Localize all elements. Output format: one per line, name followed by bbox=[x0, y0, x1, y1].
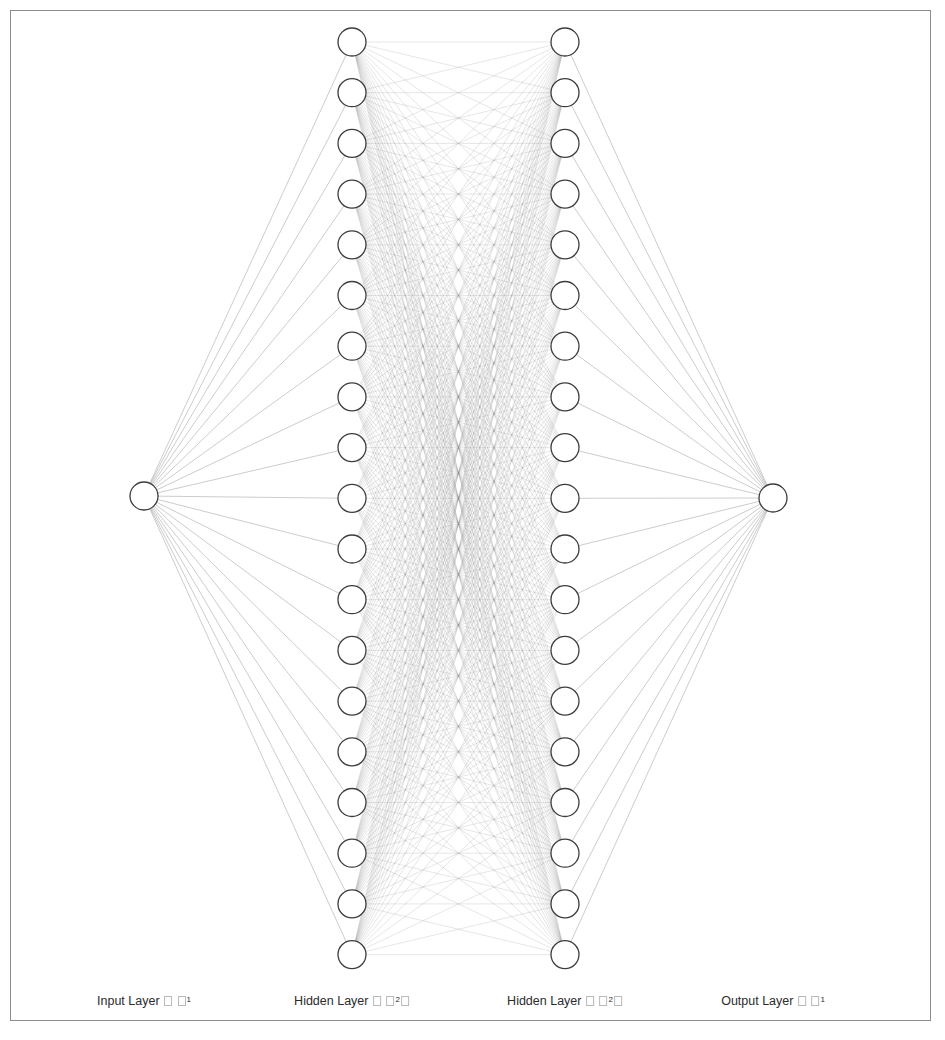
neuron-node-hidden1-15[interactable] bbox=[338, 738, 366, 766]
connection-edge bbox=[565, 498, 773, 853]
hidden-layer-1-label-text: Hidden Layer bbox=[294, 994, 368, 1008]
output-layer-label-text: Output Layer bbox=[721, 994, 793, 1008]
neuron-node-hidden1-18[interactable] bbox=[338, 890, 366, 918]
connection-edge bbox=[565, 498, 773, 904]
neuron-node-hidden2-19[interactable] bbox=[551, 941, 579, 969]
neuron-node-hidden2-9[interactable] bbox=[551, 434, 579, 462]
neuron-node-input-1[interactable] bbox=[130, 482, 158, 510]
connection-edge bbox=[565, 93, 773, 498]
connection-edge bbox=[144, 496, 352, 904]
neuron-node-hidden1-10[interactable] bbox=[338, 484, 366, 512]
connection-edge bbox=[565, 42, 773, 498]
missing-glyph-icon bbox=[599, 996, 607, 1006]
neuron-node-hidden2-12[interactable] bbox=[551, 586, 579, 614]
connection-edge bbox=[144, 346, 352, 496]
missing-glyph-icon bbox=[178, 996, 186, 1006]
neuron-node-hidden2-10[interactable] bbox=[551, 484, 579, 512]
connection-edge bbox=[565, 498, 773, 650]
neuron-node-output-1[interactable] bbox=[759, 484, 787, 512]
missing-glyph-icon bbox=[401, 996, 409, 1006]
neuron-node-hidden2-15[interactable] bbox=[551, 738, 579, 766]
neuron-node-hidden2-18[interactable] bbox=[551, 890, 579, 918]
connection-edge bbox=[144, 496, 352, 955]
missing-glyph-icon bbox=[798, 996, 806, 1006]
connection-edge bbox=[144, 143, 352, 496]
neuron-node-hidden2-5[interactable] bbox=[551, 231, 579, 259]
connection-edge bbox=[144, 93, 352, 496]
neuron-node-hidden2-17[interactable] bbox=[551, 839, 579, 867]
connection-edge bbox=[565, 498, 773, 701]
connection-edge bbox=[144, 496, 352, 752]
connection-edge bbox=[565, 498, 773, 955]
neuron-node-hidden2-1[interactable] bbox=[551, 28, 579, 56]
connection-edge bbox=[144, 194, 352, 496]
neuron-node-hidden1-2[interactable] bbox=[338, 79, 366, 107]
neuron-node-hidden1-6[interactable] bbox=[338, 282, 366, 310]
neuron-node-hidden1-9[interactable] bbox=[338, 434, 366, 462]
neuron-node-hidden2-6[interactable] bbox=[551, 282, 579, 310]
connection-edge bbox=[144, 496, 352, 701]
hidden-layer-2-label: Hidden Layer 2 bbox=[507, 992, 623, 1009]
connection-edge bbox=[565, 498, 773, 549]
connection-edge bbox=[565, 245, 773, 498]
connection-edge bbox=[144, 496, 352, 650]
missing-glyph-icon bbox=[386, 996, 394, 1006]
neuron-node-hidden1-13[interactable] bbox=[338, 636, 366, 664]
neuron-node-hidden1-4[interactable] bbox=[338, 180, 366, 208]
input-layer-superscript: 1 bbox=[187, 992, 191, 1008]
neuron-node-hidden1-1[interactable] bbox=[338, 28, 366, 56]
connection-edge bbox=[565, 296, 773, 499]
connection-edge bbox=[565, 498, 773, 752]
neuron-node-hidden1-11[interactable] bbox=[338, 535, 366, 563]
hidden-layer-2-label-text: Hidden Layer bbox=[507, 994, 581, 1008]
neuron-node-hidden1-17[interactable] bbox=[338, 839, 366, 867]
input-layer-label-text: Input Layer bbox=[97, 994, 160, 1008]
neuron-node-hidden1-7[interactable] bbox=[338, 332, 366, 360]
neural-network-figure: Input Layer 1 Hidden Layer 2 Hidden Laye… bbox=[0, 0, 945, 1040]
neuron-node-hidden1-16[interactable] bbox=[338, 789, 366, 817]
neuron-node-hidden1-3[interactable] bbox=[338, 129, 366, 157]
connection-edge bbox=[565, 143, 773, 498]
neuron-node-hidden2-16[interactable] bbox=[551, 789, 579, 817]
connection-edge bbox=[144, 42, 352, 496]
missing-glyph-icon bbox=[164, 996, 172, 1006]
connection-edge bbox=[144, 496, 352, 498]
connection-edge bbox=[144, 496, 352, 549]
connection-edge bbox=[565, 194, 773, 498]
connection-edges-group bbox=[144, 42, 773, 955]
missing-glyph-icon bbox=[811, 996, 819, 1006]
connection-edge bbox=[565, 397, 773, 498]
neuron-node-hidden2-4[interactable] bbox=[551, 180, 579, 208]
input-layer-label: Input Layer 1 bbox=[97, 992, 191, 1009]
connection-edge bbox=[144, 496, 352, 600]
neuron-node-hidden1-8[interactable] bbox=[338, 383, 366, 411]
neuron-node-hidden2-13[interactable] bbox=[551, 636, 579, 664]
neuron-node-hidden1-12[interactable] bbox=[338, 586, 366, 614]
hidden-layer-1-label: Hidden Layer 2 bbox=[294, 992, 410, 1009]
connection-edge bbox=[144, 296, 352, 497]
connection-edge bbox=[144, 397, 352, 496]
connection-edge bbox=[144, 245, 352, 496]
missing-glyph-icon bbox=[614, 996, 622, 1006]
output-layer-label: Output Layer 1 bbox=[721, 992, 825, 1009]
connection-edge bbox=[144, 496, 352, 853]
neuron-node-hidden1-19[interactable] bbox=[338, 941, 366, 969]
connection-edge bbox=[565, 498, 773, 803]
connection-edge bbox=[565, 448, 773, 498]
neuron-node-hidden2-14[interactable] bbox=[551, 687, 579, 715]
neuron-node-hidden1-5[interactable] bbox=[338, 231, 366, 259]
missing-glyph-icon bbox=[373, 996, 381, 1006]
neuron-node-hidden2-2[interactable] bbox=[551, 79, 579, 107]
output-layer-superscript: 1 bbox=[820, 992, 824, 1008]
neuron-node-hidden2-11[interactable] bbox=[551, 535, 579, 563]
neuron-node-hidden2-3[interactable] bbox=[551, 129, 579, 157]
neuron-node-hidden1-14[interactable] bbox=[338, 687, 366, 715]
hidden-layer-1-superscript: 2 bbox=[395, 992, 399, 1008]
connection-edge bbox=[144, 496, 352, 803]
connection-edge bbox=[565, 498, 773, 600]
neuron-node-hidden2-7[interactable] bbox=[551, 332, 579, 360]
hidden-layer-2-superscript: 2 bbox=[608, 992, 612, 1008]
network-graph-canvas bbox=[0, 0, 945, 1040]
connection-edge bbox=[144, 448, 352, 496]
neuron-node-hidden2-8[interactable] bbox=[551, 383, 579, 411]
